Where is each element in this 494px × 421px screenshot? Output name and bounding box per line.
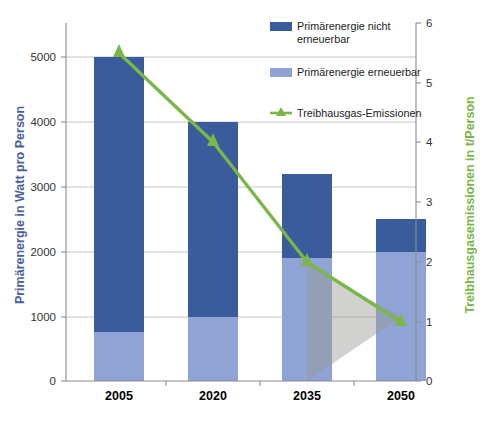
bar-nonrenewable-2050 — [376, 219, 426, 252]
left-tick-label-3000: 3000 — [30, 181, 56, 193]
legend-swatch-nonrenewable — [270, 22, 292, 31]
left-axis-title: Primärenergie in Watt pro Person — [13, 106, 27, 304]
left-tick-label-1000: 1000 — [30, 311, 56, 323]
legend-label-nonrenewable-line2: erneuerbar — [297, 33, 350, 45]
legend-label-emissions: Treibhausgas-Emissionen — [297, 107, 421, 119]
left-tick-label-2000: 2000 — [30, 246, 56, 258]
right-tick-label-1: 1 — [426, 316, 432, 328]
bar-renewable-2020 — [188, 317, 238, 381]
right-axis-title: Treibhausgasemissionen in t/Person — [463, 96, 477, 313]
right-tick-label-3: 3 — [426, 196, 432, 208]
legend-swatch-renewable — [270, 68, 292, 77]
chart-container: 5000 4000 3000 2000 1000 0 Primärenergie… — [0, 0, 494, 421]
bar-group-2050 — [376, 219, 426, 381]
x-tick-label-2035: 2035 — [293, 389, 321, 403]
right-tick-label-4: 4 — [426, 136, 433, 148]
legend-label-nonrenewable-line1: Primärenergie nicht — [297, 20, 391, 32]
bar-group-2020 — [188, 122, 238, 381]
right-tick-label-2: 2 — [426, 256, 432, 268]
bar-nonrenewable-2035 — [282, 174, 332, 258]
left-tick-label-5000: 5000 — [30, 51, 56, 63]
bar-group-2005 — [94, 57, 144, 381]
x-tick-label-2020: 2020 — [199, 389, 227, 403]
stacked-bar-line-chart: 5000 4000 3000 2000 1000 0 Primärenergie… — [0, 0, 494, 421]
x-tick-label-2005: 2005 — [105, 389, 133, 403]
bar-renewable-2005 — [94, 332, 144, 381]
left-tick-label-4000: 4000 — [30, 116, 56, 128]
right-tick-label-0: 0 — [426, 375, 432, 387]
bar-nonrenewable-2005 — [94, 57, 144, 332]
x-tick-label-2050: 2050 — [387, 389, 415, 403]
right-tick-label-6: 6 — [426, 17, 432, 29]
left-tick-label-0: 0 — [50, 375, 56, 387]
legend-label-renewable: Primärenergie erneuerbar — [297, 66, 421, 78]
bar-nonrenewable-2020 — [188, 122, 238, 317]
right-tick-label-5: 5 — [426, 77, 432, 89]
